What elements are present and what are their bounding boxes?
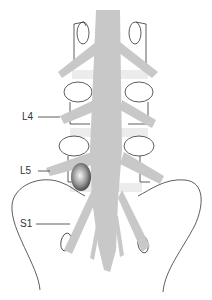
label-l4: L4 [22, 112, 33, 122]
spine-diagram: L4 L5 S1 [0, 0, 212, 300]
label-l5: L5 [20, 166, 31, 176]
label-s1: S1 [20, 219, 32, 229]
spine-illustration [0, 0, 212, 300]
disc-herniation [71, 163, 91, 191]
